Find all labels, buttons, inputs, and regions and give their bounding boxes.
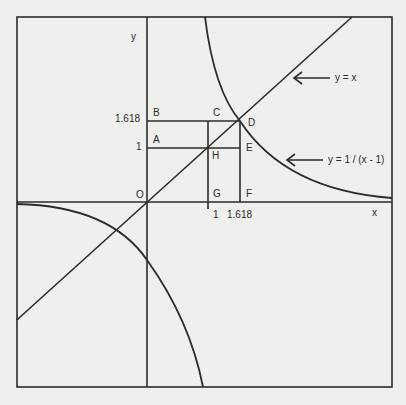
point-label-a: A <box>153 134 160 145</box>
x-tick-label-1: 1 <box>213 209 219 220</box>
point-label-f: F <box>246 188 252 199</box>
point-label-b: B <box>153 107 160 118</box>
label-hyperbola: y = 1 / (x - 1) <box>328 154 384 165</box>
point-label-h: H <box>212 150 219 161</box>
y-axis-label: y <box>131 31 136 42</box>
label-y-equals-x: y = x <box>335 72 356 83</box>
x-axis-label: x <box>372 207 377 218</box>
golden-ratio-diagram: y x O 1.618 1 1 1.618 B C D A E H G F y … <box>0 0 406 405</box>
point-label-d: D <box>248 117 255 128</box>
point-label-o: O <box>136 189 144 200</box>
y-tick-label-1618: 1.618 <box>115 113 140 124</box>
diagram-canvas: y x O 1.618 1 1 1.618 B C D A E H G F y … <box>0 0 406 405</box>
y-tick-label-1: 1 <box>136 141 142 152</box>
point-label-e: E <box>246 142 253 153</box>
point-label-c: C <box>213 107 220 118</box>
arrow-left-icon <box>294 72 330 84</box>
line-y-equals-x <box>19 17 352 318</box>
x-tick-label-1618: 1.618 <box>227 209 252 220</box>
arrow-left-icon <box>287 154 323 166</box>
point-label-g: G <box>213 188 221 199</box>
hyperbola-upper-branch <box>205 17 392 198</box>
